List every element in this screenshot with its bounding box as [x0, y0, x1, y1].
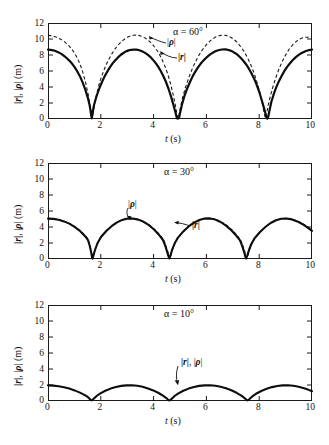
r-leader-arrow-panel-2	[174, 221, 179, 225]
x-ticks-panel-1	[101, 23, 259, 119]
x-tick-label-2-p1: 2	[98, 121, 103, 131]
alpha-annotation-panel-1: α = 60°	[173, 26, 203, 37]
x-tick-label-0-p1: 0	[45, 121, 50, 131]
rho-label-panel-1: |ρ|	[167, 37, 176, 47]
x-tick-label-4-p1: 4	[150, 121, 155, 131]
r-rho-curve-panel-3	[48, 385, 312, 400]
r-rho-leader-arrow-panel-3	[175, 380, 180, 385]
x-tick-label-2-p2: 2	[98, 261, 103, 271]
x-tick-label-10-p3: 10	[306, 403, 316, 413]
x-tick-label-0-p3: 0	[45, 403, 50, 413]
rho-leader-arrow-panel-1	[149, 36, 154, 40]
rho-label-panel-2: |ρ|	[128, 199, 137, 209]
x-tick-label-8-p1: 8	[256, 121, 261, 131]
panel-alpha-10: |r|, |ρ| (m) 12 10 8 6 4 2 0	[0, 282, 329, 432]
rho-curve-panel-1	[48, 35, 312, 118]
alpha-annotation-panel-2: α = 30°	[164, 166, 194, 177]
x-tick-label-6-p3: 6	[203, 403, 208, 413]
x-tick-label-8-p3: 8	[256, 403, 261, 413]
alpha-annotation-panel-3: α = 10°	[164, 308, 194, 319]
x-tick-label-6-p1: 6	[203, 121, 208, 131]
r-label-panel-2: |r|	[192, 220, 200, 230]
x-ticks-panel-2	[101, 163, 259, 259]
x-tick-label-10-p1: 10	[306, 121, 316, 131]
x-tick-label-4-p2: 4	[150, 261, 155, 271]
panel-alpha-30: |r|, |ρ| (m) 12 10 8 6 4 2 0	[0, 140, 329, 290]
panel-alpha-60: |r|, |ρ| (m) 12 10 8 6 4 2 0	[0, 0, 329, 150]
x-tick-label-4-p3: 4	[150, 403, 155, 413]
x-tick-label-0-p2: 0	[45, 261, 50, 271]
r-label-panel-1: |r|	[178, 52, 186, 62]
r-rho-label-panel-3: |r|, |ρ|	[181, 357, 202, 367]
figure-three-panel-plot: |r|, |ρ| (m) 12 10 8 6 4 2 0	[0, 0, 329, 445]
x-tick-label-10-p2: 10	[306, 261, 316, 271]
x-axis-title-panel-3: t (s)	[165, 415, 181, 426]
x-tick-label-6-p2: 6	[203, 261, 208, 271]
x-tick-label-2-p3: 2	[98, 403, 103, 413]
r-curve-panel-2	[48, 218, 312, 258]
x-tick-label-8-p2: 8	[256, 261, 261, 271]
y-ticks-panel-2	[48, 179, 312, 243]
y-ticks-panel-3	[48, 321, 312, 385]
